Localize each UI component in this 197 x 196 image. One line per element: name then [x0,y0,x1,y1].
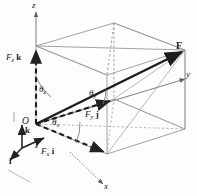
unit-vector-j-label: j [35,139,38,148]
fx-subscript: x [47,150,50,157]
j-unit: j [96,109,99,119]
y-component-label: Fy j [85,110,99,120]
fy-subscript: y [91,113,94,120]
i-unit: i [52,146,55,156]
x-axis-label: x [104,182,108,191]
theta-x-label: θx [52,118,59,128]
vector-components-figure: z y x O F Fz k Fy j Fx i θz θy θx k j i [0,0,197,196]
figure-drawing [0,0,197,196]
theta-z-label: θz [39,85,46,95]
theta-y-label: θy [89,89,96,99]
resultant-force-vector [36,52,182,124]
unit-vector-k-label: k [25,126,30,135]
y-axis-label: y [186,70,190,79]
theta-y-subscript: y [93,92,96,99]
z-component-label: Fz k [6,53,21,63]
x-component-label: Fx i [41,147,54,157]
coordinate-axes [36,12,185,184]
resultant-force-label: F [176,41,182,51]
z-axis-label: z [32,1,36,10]
unit-vector-i-label: i [9,157,12,166]
fz-subscript: z [12,56,15,63]
k-unit: k [16,52,21,62]
theta-x-subscript: x [56,121,59,128]
theta-z-subscript: z [43,88,46,95]
